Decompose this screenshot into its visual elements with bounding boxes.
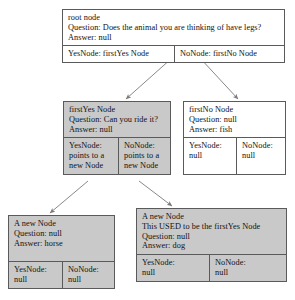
edge-root-yes-to-first-yes	[126, 58, 172, 99]
node-root[interactable]: root node Question: Does the animal you …	[62, 9, 285, 63]
node-first-yes-yes-label-3: new Node	[69, 161, 114, 171]
node-root-ports: YesNode: firstYes Node NoNode: firstNo N…	[63, 45, 284, 62]
node-first-no-no-label-2: null	[242, 151, 281, 161]
node-new-horse-header: A new Node Question: null Answer: horse	[9, 216, 114, 261]
diagram-canvas: root node Question: Does the animal you …	[0, 0, 295, 300]
node-root-title: root node	[68, 13, 280, 23]
node-new-dog-yes-label-2: null	[142, 268, 205, 278]
node-new-dog-header: A new Node This USED to be the firstYes …	[137, 209, 286, 254]
node-first-no-ports: YesNode: null NoNode: null	[184, 137, 285, 173]
node-first-no-yes-label-1: YesNode:	[189, 141, 232, 151]
node-first-yes-question: Question: Can you ride it?	[69, 115, 166, 125]
node-first-yes-answer: Answer: null	[69, 125, 166, 135]
node-first-no-yes-spacer	[189, 161, 232, 171]
node-first-no[interactable]: firstNo Node Question: null Answer: fish…	[183, 101, 286, 175]
node-new-dog-question: Question: null	[142, 232, 282, 242]
node-new-horse-question: Question: null	[14, 229, 110, 239]
node-first-no-no-port[interactable]: NoNode: null	[236, 138, 285, 173]
node-new-horse-yes-label-1: YesNode:	[14, 265, 58, 275]
node-new-horse-ports: YesNode: null NoNode: null	[9, 261, 114, 288]
edge-root-no-to-first-no	[200, 58, 238, 99]
node-new-horse-no-label-1: NoNode:	[68, 265, 110, 275]
node-new-horse-title: A new Node	[14, 219, 110, 229]
node-first-no-yes-label-2: null	[189, 151, 232, 161]
node-new-dog-no-label-1: NoNode:	[215, 258, 282, 268]
node-first-no-yes-port[interactable]: YesNode: null	[184, 138, 236, 173]
node-first-yes-no-label-3: new Node	[124, 161, 166, 171]
node-new-dog-no-port[interactable]: NoNode: null	[209, 255, 286, 281]
node-first-yes[interactable]: firstYes Node Question: Can you ride it?…	[63, 101, 171, 175]
node-new-horse-no-port[interactable]: NoNode: null	[62, 262, 114, 288]
node-first-no-no-spacer	[242, 161, 281, 171]
node-root-header: root node Question: Does the animal you …	[63, 10, 284, 45]
node-new-dog-no-label-2: null	[215, 268, 282, 278]
node-new-horse-yes-label-2: null	[14, 275, 58, 285]
node-first-yes-title: firstYes Node	[69, 105, 166, 115]
node-new-horse-no-label-2: null	[68, 275, 110, 285]
node-new-horse-answer: Answer: horse	[14, 239, 110, 249]
node-new-dog-ports: YesNode: null NoNode: null	[137, 254, 286, 281]
node-first-no-header: firstNo Node Question: null Answer: fish	[184, 102, 285, 137]
node-first-no-answer: Answer: fish	[189, 125, 281, 135]
node-root-answer: Answer: null	[68, 33, 280, 43]
node-root-no-port[interactable]: NoNode: firstNo Node	[174, 46, 284, 62]
node-root-no-label: NoNode: firstNo Node	[180, 49, 280, 59]
node-new-dog-title: A new Node	[142, 212, 282, 222]
node-first-no-no-label-1: NoNode:	[242, 141, 281, 151]
node-first-yes-no-label-1: NoNode:	[124, 141, 166, 151]
node-first-yes-header: firstYes Node Question: Can you ride it?…	[64, 102, 170, 137]
node-new-dog[interactable]: A new Node This USED to be the firstYes …	[136, 208, 287, 282]
node-first-yes-no-port[interactable]: NoNode: points to a new Node	[118, 138, 170, 173]
node-root-yes-port[interactable]: YesNode: firstYes Node	[63, 46, 174, 62]
node-new-horse-yes-port[interactable]: YesNode: null	[9, 262, 62, 288]
node-first-yes-yes-label-2: points to a	[69, 151, 114, 161]
node-new-dog-yes-port[interactable]: YesNode: null	[137, 255, 209, 281]
node-root-question: Question: Does the animal you are thinki…	[68, 23, 280, 33]
node-new-horse[interactable]: A new Node Question: null Answer: horse …	[8, 215, 115, 289]
node-first-no-question: Question: null	[189, 115, 281, 125]
node-root-yes-label: YesNode: firstYes Node	[68, 49, 170, 59]
node-new-dog-note: This USED to be the firstYes Node	[142, 222, 282, 232]
node-first-yes-no-label-2: points to a	[124, 151, 166, 161]
node-new-dog-yes-label-1: YesNode:	[142, 258, 205, 268]
node-first-no-title: firstNo Node	[189, 105, 281, 115]
node-first-yes-yes-port[interactable]: YesNode: points to a new Node	[64, 138, 118, 173]
edge-first-yes-no-to-dog	[139, 181, 172, 206]
node-first-yes-yes-label-1: YesNode:	[69, 141, 114, 151]
node-first-yes-ports: YesNode: points to a new Node NoNode: po…	[64, 137, 170, 173]
edge-first-yes-yes-to-horse	[50, 181, 88, 213]
node-new-dog-answer: Answer: dog	[142, 241, 282, 251]
